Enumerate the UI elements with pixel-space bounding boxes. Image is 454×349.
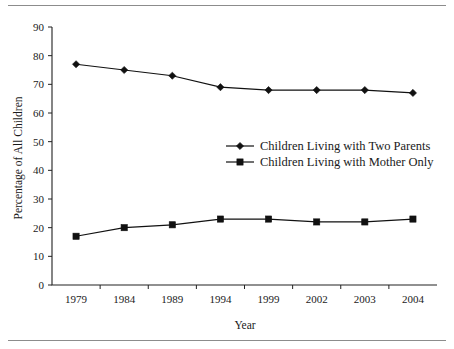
y-tick-label: 0: [39, 279, 45, 291]
x-tick-label: 1994: [209, 293, 232, 305]
x-axis-title: Year: [234, 319, 255, 331]
x-axis-ticks: 19791984198919941999200220032004: [65, 285, 424, 305]
y-tick-label: 60: [33, 107, 45, 119]
data-point-marker: [314, 219, 320, 225]
legend-item: Children Living with Mother Only: [226, 155, 434, 169]
data-point-marker: [73, 233, 79, 239]
chart-legend: Children Living with Two ParentsChildren…: [226, 139, 434, 169]
y-tick-label: 10: [33, 250, 45, 262]
y-tick-label: 80: [33, 50, 45, 62]
data-point-marker: [72, 61, 79, 68]
data-point-marker: [121, 66, 128, 73]
data-point-marker: [313, 86, 320, 93]
data-point-marker: [265, 216, 271, 222]
data-point-marker: [217, 84, 224, 91]
line-chart-plot: 0102030405060708090 19791984198919941999…: [0, 0, 454, 349]
chart-figure: 0102030405060708090 19791984198919941999…: [0, 0, 454, 349]
data-series: [73, 216, 416, 239]
data-point-marker: [409, 89, 416, 96]
y-tick-label: 70: [33, 78, 45, 90]
data-point-marker: [169, 222, 175, 228]
x-tick-label: 2004: [402, 293, 425, 305]
x-tick-label: 2003: [354, 293, 377, 305]
data-point-marker: [361, 86, 368, 93]
x-tick-label: 2002: [306, 293, 328, 305]
data-series: [72, 61, 416, 97]
y-tick-label: 30: [33, 193, 45, 205]
y-tick-label: 50: [33, 136, 45, 148]
data-point-marker: [121, 225, 127, 231]
x-tick-label: 1979: [65, 293, 88, 305]
data-point-marker: [362, 219, 368, 225]
x-tick-label: 1989: [161, 293, 184, 305]
y-axis-ticks: 0102030405060708090: [33, 21, 52, 291]
y-tick-label: 40: [33, 164, 45, 176]
data-point-marker: [217, 216, 223, 222]
x-tick-label: 1999: [258, 293, 281, 305]
data-point-marker: [265, 86, 272, 93]
data-point-marker: [410, 216, 416, 222]
legend-item: Children Living with Two Parents: [226, 139, 431, 153]
y-axis-title: Percentage of All Children: [12, 96, 25, 219]
data-point-marker: [169, 72, 176, 79]
legend-label: Children Living with Mother Only: [260, 155, 434, 169]
legend-label: Children Living with Two Parents: [260, 139, 431, 153]
data-point-marker: [237, 159, 243, 165]
y-tick-label: 20: [33, 222, 45, 234]
data-point-marker: [236, 142, 243, 149]
x-tick-label: 1984: [113, 293, 136, 305]
y-tick-label: 90: [33, 21, 45, 33]
